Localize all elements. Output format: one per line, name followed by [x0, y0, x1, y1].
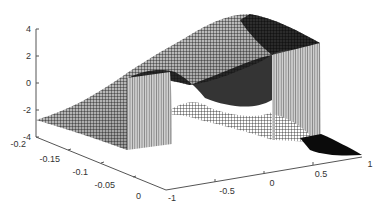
surface-mesh: [36, 14, 362, 155]
y-tick: -0.1: [72, 167, 88, 177]
z-tick: 0: [26, 78, 31, 88]
surface-plot: 4 2 0 -2 -4 -0.2 -0.15 -0.1 -0.05 0 -1 -…: [0, 0, 382, 212]
y-tick: -0.2: [10, 139, 26, 149]
x-tick: 0: [269, 178, 274, 188]
x-tick-labels: -1 -0.5 0 0.5 1: [168, 159, 373, 203]
y-tick: -0.05: [94, 180, 115, 190]
z-tick: 4: [26, 24, 31, 34]
x-tick: 0.5: [315, 169, 328, 179]
z-tick: 2: [26, 51, 31, 61]
x-tick: -0.5: [219, 186, 235, 196]
z-tick-labels: 4 2 0 -2 -4: [23, 24, 31, 142]
x-tick: 1: [367, 159, 372, 169]
z-tick: -2: [23, 105, 31, 115]
y-tick: -0.15: [39, 154, 60, 164]
x-tick: -1: [168, 193, 176, 203]
y-tick: 0: [136, 191, 141, 201]
y-tick-labels: -0.2 -0.15 -0.1 -0.05 0: [10, 139, 141, 201]
